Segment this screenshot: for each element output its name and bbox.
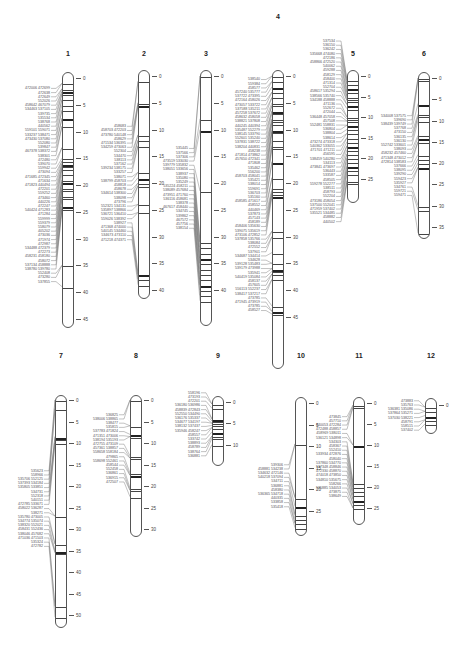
marker-band <box>348 167 358 169</box>
marker-band <box>63 167 73 168</box>
scale-tick-label: 0 <box>293 74 296 79</box>
scale-tick <box>69 443 74 444</box>
scale-tick <box>309 511 314 512</box>
marker-band <box>213 433 223 435</box>
scale-tick <box>309 468 314 469</box>
scale-tick-label: 30 <box>293 234 298 239</box>
marker-band <box>63 183 73 185</box>
chromosome-title: 12 <box>427 352 435 359</box>
scale-tick-label: 45 <box>293 314 298 319</box>
scale-tick <box>76 185 81 186</box>
marker-band <box>63 159 73 160</box>
marker-band <box>131 438 141 439</box>
marker-band <box>348 159 358 160</box>
scale-tick <box>144 443 149 444</box>
marker-band <box>348 89 358 91</box>
scale-tick-label: 0 <box>83 76 86 81</box>
scale-tick <box>214 156 219 157</box>
scale-tick-label: 35 <box>293 261 298 266</box>
marker-band <box>56 554 66 555</box>
marker-band <box>63 197 73 198</box>
scale-tick-label: 35 <box>221 261 226 266</box>
marker-band <box>354 446 364 448</box>
marker-band <box>131 459 141 460</box>
marker-band <box>201 264 211 265</box>
marker-band <box>63 288 73 289</box>
scale-tick <box>144 529 149 530</box>
marker-band <box>139 286 149 287</box>
scale-tick <box>152 183 157 184</box>
scale-tick <box>152 103 157 104</box>
scale-tick-label: 25 <box>368 176 373 181</box>
scale-tick <box>69 551 74 552</box>
marker-band <box>273 272 283 273</box>
marker-band <box>348 143 358 144</box>
marker-band <box>131 476 141 478</box>
chromosome-title: 3 <box>204 50 208 57</box>
marker-band <box>201 275 211 276</box>
scale-tick <box>69 400 74 401</box>
marker-band <box>213 429 223 430</box>
scale-tick <box>286 210 291 211</box>
marker-band <box>63 170 73 171</box>
scale-tick <box>69 572 74 573</box>
scale-tick <box>144 400 149 401</box>
marker-band <box>296 529 306 530</box>
scale-tick <box>144 508 149 509</box>
scale-tick <box>214 237 219 238</box>
marker-band <box>419 143 429 144</box>
scale-tick-label: 5 <box>76 419 79 424</box>
marker-band <box>419 160 429 161</box>
marker-band <box>63 210 73 211</box>
scale-tick <box>69 465 74 466</box>
marker-band <box>296 445 306 446</box>
marker-band <box>273 195 283 196</box>
marker-band <box>201 254 211 255</box>
marker-band <box>348 130 358 131</box>
chromosome-4 <box>272 70 284 369</box>
marker-band <box>139 136 149 137</box>
marker-band <box>56 440 66 441</box>
scale-tick <box>214 290 219 291</box>
scale-tick-label: 5 <box>221 100 224 105</box>
chromosome-9 <box>212 396 224 466</box>
marker-band <box>273 149 283 150</box>
marker-label: 537402 <box>401 428 413 432</box>
scale-tick <box>69 615 74 616</box>
marker-band <box>201 120 211 121</box>
marker-band <box>419 207 429 208</box>
marker-band <box>201 77 211 78</box>
marker-band <box>419 136 429 137</box>
chromosome-title: 9 <box>216 352 220 359</box>
scale-tick-label: 0 <box>159 74 162 79</box>
scale-tick-label: 0 <box>368 74 371 79</box>
marker-band <box>273 147 283 148</box>
marker-band <box>56 607 66 608</box>
marker-band <box>426 417 436 419</box>
scale-tick-label: 40 <box>76 570 81 575</box>
scale-tick <box>286 263 291 264</box>
scale-tick-label: 40 <box>83 290 88 295</box>
marker-band <box>419 139 429 141</box>
marker-band <box>63 106 73 107</box>
marker-band <box>139 280 149 281</box>
marker-band <box>348 184 358 185</box>
marker-band <box>139 82 149 83</box>
scale-tick <box>286 183 291 184</box>
scale-tick-label: 0 <box>221 74 224 79</box>
marker-band <box>273 133 283 134</box>
scale-tick <box>214 183 219 184</box>
scale-tick <box>152 210 157 211</box>
marker-band <box>348 155 358 156</box>
scale-tick <box>152 263 157 264</box>
scale-tick-label: 15 <box>76 462 81 467</box>
scale-tick <box>367 508 372 509</box>
chromosome-title: 1 <box>66 50 70 57</box>
marker-band <box>63 162 73 163</box>
marker-band <box>348 126 358 128</box>
marker-band <box>419 117 429 118</box>
scale-tick-label: 35 <box>439 224 444 229</box>
marker-band <box>131 427 141 428</box>
scale-tick-label: 10 <box>76 441 81 446</box>
marker-band <box>139 104 149 105</box>
